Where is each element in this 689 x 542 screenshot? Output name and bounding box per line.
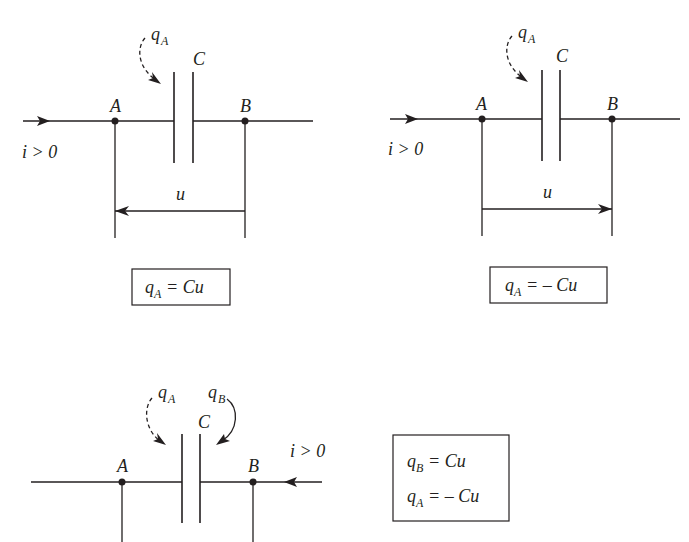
charge-dashed-curve [140, 38, 156, 80]
formula-line2-rhs: = – Cu [428, 486, 479, 506]
capacitor-label: C [556, 46, 569, 66]
charge-a-arrow-icon [153, 433, 166, 445]
formula-line1-rhs: = Cu [428, 451, 466, 471]
node-b-label: B [240, 96, 251, 116]
charge-b-sub: B [218, 392, 226, 406]
formula-box: q B = Cu q A = – Cu [393, 435, 509, 521]
diagram-top-left: i > 0 C A B u q A q A = Cu [22, 24, 313, 305]
formula-box: q A = Cu [132, 269, 230, 305]
capacitor-label: C [193, 49, 206, 69]
voltage-label: u [176, 184, 185, 204]
formula-rhs: = Cu [166, 277, 204, 297]
charge-q: q [151, 24, 160, 44]
formula-line1-sub: B [416, 461, 424, 475]
charge-dashed-curve [507, 36, 523, 78]
charge-b-q: q [208, 382, 217, 402]
charge-a-q: q [158, 382, 167, 402]
node-a-label: A [109, 96, 122, 116]
current-label: i > 0 [388, 139, 423, 159]
charge-sub: A [527, 32, 536, 46]
diagram-bottom: i > 0 C A B q A q B q B = Cu q A = – Cu [31, 382, 509, 542]
node-a-label: A [116, 456, 129, 476]
node-b-label: B [607, 94, 618, 114]
charge-arrow-icon [515, 70, 528, 82]
charge-q: q [518, 22, 527, 42]
charge-sub: A [160, 34, 169, 48]
charge-a-sub: A [167, 392, 176, 406]
formula-sub: A [153, 287, 162, 301]
formula-line1-q: q [407, 451, 416, 471]
current-label: i > 0 [290, 441, 325, 461]
formula-line2-q: q [407, 486, 416, 506]
formula-rhs: = – Cu [526, 275, 577, 295]
current-label: i > 0 [22, 142, 57, 162]
formula-line2-sub: A [415, 496, 424, 510]
node-a-label: A [475, 94, 488, 114]
capacitor-label: C [198, 412, 211, 432]
formula-q: q [145, 277, 154, 297]
voltage-label: u [543, 182, 552, 202]
charge-arrow-icon [148, 72, 161, 84]
node-b-label: B [248, 456, 259, 476]
formula-sub: A [513, 285, 522, 299]
formula-box: q A = – Cu [490, 267, 607, 303]
formula-q: q [505, 275, 514, 295]
diagram-top-right: i > 0 C A B u q A q A = – Cu [388, 22, 680, 303]
capacitor-sign-convention-figure: i > 0 C A B u q A q A = Cu i > 0 [0, 0, 689, 542]
